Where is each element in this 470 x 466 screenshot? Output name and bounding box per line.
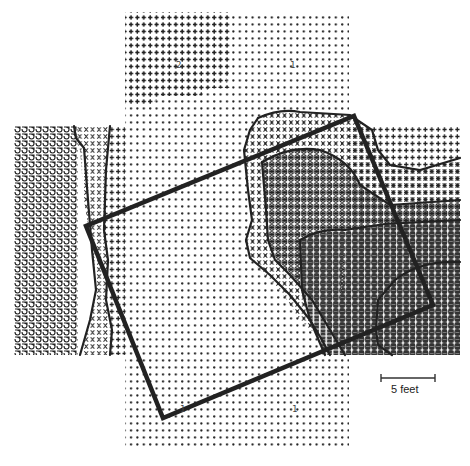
svg-text:2: 2	[176, 60, 181, 70]
left-wing	[14, 126, 125, 355]
scale-bar	[381, 374, 435, 382]
contour-map: 2 1 1 1	[0, 0, 470, 466]
svg-text:1: 1	[292, 404, 297, 414]
scale-bar-label: 5 feet	[391, 383, 419, 395]
svg-text:1: 1	[290, 60, 295, 70]
svg-text:1: 1	[180, 404, 185, 414]
